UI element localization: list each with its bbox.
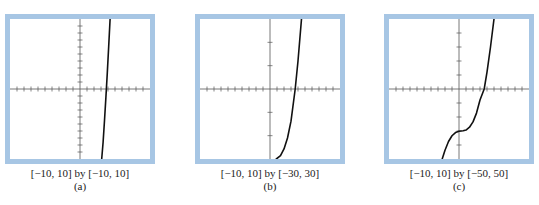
window-label-b: [−10, 10] by [−30, 30]	[195, 167, 345, 179]
window-label-a: [−10, 10] by [−10, 10]	[5, 167, 155, 179]
window-label-c: [−10, 10] by [−50, 50]	[384, 167, 534, 179]
graph-frame-b	[195, 14, 345, 164]
panel-label-a: (a)	[5, 180, 155, 192]
graph-frame-c	[384, 14, 534, 164]
graph-frame-a	[5, 14, 155, 164]
panel-a: [−10, 10] by [−10, 10] (a)	[5, 14, 155, 194]
panel-b: [−10, 10] by [−30, 30] (b)	[195, 14, 345, 194]
panel-label-c: (c)	[384, 180, 534, 192]
graph-a	[10, 19, 150, 159]
panel-c: [−10, 10] by [−50, 50] (c)	[384, 14, 534, 194]
panel-label-b: (b)	[195, 180, 345, 192]
graph-c	[389, 19, 529, 159]
graph-b	[200, 19, 340, 159]
